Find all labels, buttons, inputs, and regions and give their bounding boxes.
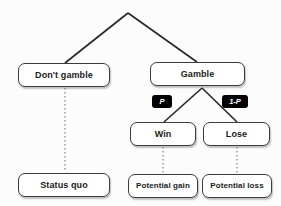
- probability-badge-lose: 1-P: [222, 95, 248, 108]
- decision-tree-diagram: Don't gamble Gamble P 1-P Win Lose Statu…: [0, 0, 281, 206]
- probability-badge-lose-label: 1-P: [229, 98, 241, 106]
- node-potential-loss-label: Potential loss: [210, 182, 263, 190]
- node-win-label: Win: [155, 130, 172, 139]
- node-potential-loss[interactable]: Potential loss: [202, 174, 272, 198]
- node-status-quo[interactable]: Status quo: [18, 173, 110, 197]
- node-potential-gain[interactable]: Potential gain: [128, 174, 198, 198]
- edge-root-to-dont-gamble: [65, 13, 128, 63]
- node-dont-gamble[interactable]: Don't gamble: [18, 63, 110, 87]
- node-win[interactable]: Win: [130, 122, 196, 146]
- edge-root-to-gamble: [128, 13, 197, 62]
- node-lose-label: Lose: [226, 130, 247, 139]
- node-lose[interactable]: Lose: [203, 122, 270, 146]
- probability-badge-win: P: [152, 95, 172, 108]
- node-potential-gain-label: Potential gain: [136, 182, 190, 190]
- node-dont-gamble-label: Don't gamble: [35, 71, 93, 80]
- node-gamble-label: Gamble: [181, 70, 215, 79]
- node-gamble[interactable]: Gamble: [150, 62, 245, 86]
- probability-badge-win-label: P: [159, 98, 164, 106]
- node-status-quo-label: Status quo: [40, 181, 88, 190]
